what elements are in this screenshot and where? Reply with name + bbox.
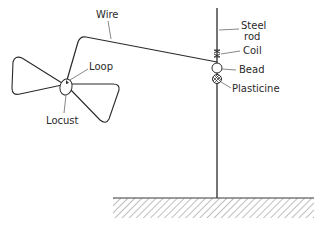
apparatus-diagram: Wire Steel rod Coil Bead Plasticine Loop… bbox=[0, 0, 320, 226]
plasticine-label: Plasticine bbox=[232, 83, 280, 94]
locust-label: Locust bbox=[46, 115, 78, 126]
bead-label: Bead bbox=[239, 64, 265, 75]
wire-leader bbox=[108, 21, 111, 39]
coil-label: Coil bbox=[243, 45, 262, 56]
plasticine bbox=[213, 75, 232, 89]
steel-rod-label-line2: rod bbox=[244, 31, 260, 42]
wire-label: Wire bbox=[96, 9, 119, 20]
wire bbox=[67, 37, 217, 80]
ground-base bbox=[113, 198, 314, 218]
diagram-drawing bbox=[0, 0, 320, 226]
loop-leader bbox=[70, 69, 88, 80]
steel-rod-label-line1: Steel bbox=[241, 20, 266, 31]
steel-rod-leader bbox=[219, 29, 239, 30]
bead bbox=[212, 63, 236, 73]
coil bbox=[214, 50, 240, 57]
loop-label: Loop bbox=[89, 61, 113, 72]
